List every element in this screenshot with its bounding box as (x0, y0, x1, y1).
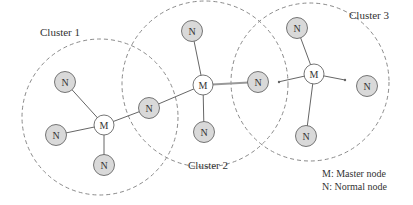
arrow-tip-icon (344, 79, 346, 81)
normal-node: N (139, 98, 160, 119)
node-label: N (363, 81, 370, 92)
node-label: N (302, 131, 309, 142)
node-label: M (100, 120, 109, 131)
node-label: N (200, 127, 207, 138)
cluster-1-label: Cluster 1 (40, 26, 80, 38)
cluster-3-label: Cluster 3 (349, 9, 390, 21)
master-node: M (304, 64, 324, 84)
node-label: M (310, 69, 319, 80)
node-label: M (199, 80, 208, 91)
normal-node: N (296, 126, 317, 147)
legend: M: Master node N: Normal node (322, 167, 387, 193)
normal-node: N (287, 18, 308, 39)
master-node: M (94, 115, 114, 135)
normal-node: N (182, 21, 203, 42)
normal-node: N (46, 125, 67, 146)
normal-node: N (194, 122, 215, 143)
legend-master: M: Master node (322, 167, 387, 180)
node-label: N (293, 23, 300, 34)
arrow-tip-icon (278, 81, 280, 83)
normal-node: N (55, 72, 76, 93)
node-label: N (100, 160, 107, 171)
node-label: N (188, 26, 195, 37)
normal-node: N (248, 72, 269, 93)
cluster-2-label: Cluster 2 (188, 159, 228, 171)
normal-node: N (357, 76, 378, 97)
node-label: N (61, 77, 68, 88)
legend-normal: N: Normal node (322, 180, 387, 193)
node-label: N (254, 77, 261, 88)
master-node: M (193, 75, 213, 95)
node-label: N (145, 103, 152, 114)
normal-node: N (94, 155, 115, 176)
node-label: N (52, 130, 59, 141)
